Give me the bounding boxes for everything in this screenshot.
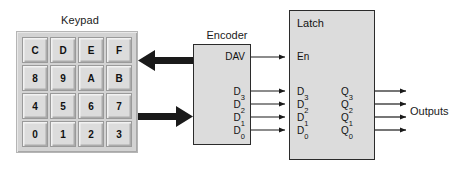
keypad-key[interactable]: F xyxy=(106,37,132,63)
encoder-label: Encoder xyxy=(188,29,266,41)
latch-pin-d1: D1 xyxy=(297,112,308,123)
keypad-key[interactable]: 2 xyxy=(78,121,104,147)
keypad-key[interactable]: 7 xyxy=(106,93,132,119)
latch-pin-en: En xyxy=(297,51,309,62)
latch-pin-q2: Q2 xyxy=(341,99,353,110)
keypad-key[interactable]: A xyxy=(78,65,104,91)
encoder-pin-d0: D0 xyxy=(193,125,245,136)
keypad-key[interactable]: 0 xyxy=(22,121,48,147)
keypad-key[interactable]: 3 xyxy=(106,121,132,147)
keypad-key[interactable]: B xyxy=(106,65,132,91)
encoder-pin-d1: D1 xyxy=(193,112,245,123)
outputs-label: Outputs xyxy=(410,105,449,117)
keypad-key[interactable]: D xyxy=(50,37,76,63)
encoder-pin-d3: D3 xyxy=(193,86,245,97)
keypad-key[interactable]: 6 xyxy=(78,93,104,119)
latch-pin-d2: D2 xyxy=(297,99,308,110)
latch-pin-d0: D0 xyxy=(297,125,308,136)
keypad-frame: C D E F 8 9 A B 4 5 6 7 0 1 2 3 xyxy=(16,31,138,153)
block-diagram: Keypad C D E F 8 9 A B 4 5 6 7 0 1 2 3 xyxy=(0,0,461,190)
latch-pin-q3: Q3 xyxy=(341,86,353,97)
keypad-label: Keypad xyxy=(50,14,110,26)
keypad-grid: C D E F 8 9 A B 4 5 6 7 0 1 2 3 xyxy=(22,37,132,147)
latch-pin-q0: Q0 xyxy=(341,125,353,136)
keypad-key[interactable]: 8 xyxy=(22,65,48,91)
keypad-key[interactable]: C xyxy=(22,37,48,63)
latch-pin-d3: D3 xyxy=(297,86,308,97)
keypad-key[interactable]: 5 xyxy=(50,93,76,119)
keypad-group: Keypad C D E F 8 9 A B 4 5 6 7 0 1 2 3 xyxy=(0,0,150,190)
keypad-key[interactable]: 9 xyxy=(50,65,76,91)
keypad-key[interactable]: E xyxy=(78,37,104,63)
keypad-key[interactable]: 4 xyxy=(22,93,48,119)
encoder-pin-d2: D2 xyxy=(193,99,245,110)
encoder-pin-dav: DAV xyxy=(193,51,245,62)
latch-label: Latch xyxy=(297,17,324,29)
keypad-key[interactable]: 1 xyxy=(50,121,76,147)
latch-pin-q1: Q1 xyxy=(341,112,353,123)
latch-block xyxy=(289,10,375,160)
